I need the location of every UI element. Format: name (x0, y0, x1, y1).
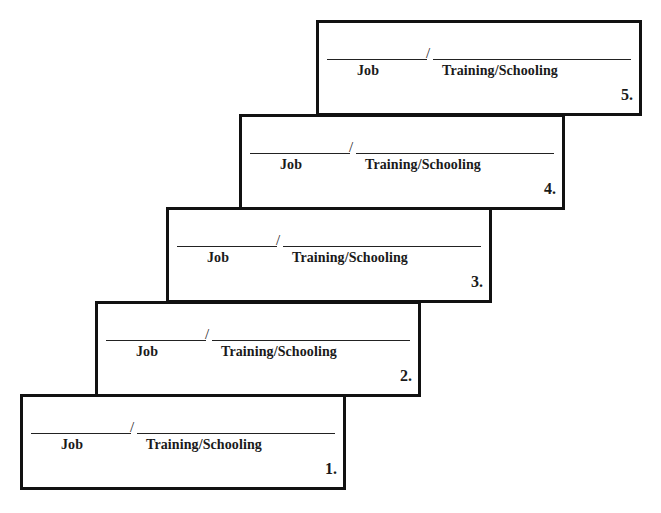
step-number: 3. (471, 273, 483, 291)
step-number: 1. (325, 460, 337, 478)
training-blank-line[interactable] (212, 340, 410, 341)
separator-slash: / (276, 232, 280, 249)
training-label: Training/Schooling (365, 157, 481, 173)
training-label: Training/Schooling (221, 344, 337, 360)
training-label: Training/Schooling (146, 437, 262, 453)
separator-slash: / (349, 139, 353, 156)
training-label: Training/Schooling (442, 63, 558, 79)
step-number: 5. (621, 86, 633, 104)
job-label: Job (136, 344, 158, 360)
training-blank-line[interactable] (433, 59, 631, 60)
step-box-1: / Job Training/Schooling 1. (20, 394, 346, 490)
step-box-4: / Job Training/Schooling 4. (239, 114, 565, 210)
job-blank-line[interactable] (250, 153, 350, 154)
separator-slash: / (205, 326, 209, 343)
job-label: Job (61, 437, 83, 453)
step-box-5: / Job Training/Schooling 5. (316, 20, 642, 116)
job-label: Job (357, 63, 379, 79)
step-box-3: / Job Training/Schooling 3. (166, 207, 492, 303)
job-blank-line[interactable] (31, 433, 131, 434)
training-label: Training/Schooling (292, 250, 408, 266)
training-blank-line[interactable] (137, 433, 335, 434)
job-blank-line[interactable] (177, 246, 277, 247)
job-label: Job (280, 157, 302, 173)
step-number: 4. (544, 180, 556, 198)
separator-slash: / (130, 419, 134, 436)
step-number: 2. (400, 367, 412, 385)
step-box-2: / Job Training/Schooling 2. (95, 301, 421, 397)
job-blank-line[interactable] (327, 59, 427, 60)
training-blank-line[interactable] (283, 246, 481, 247)
job-blank-line[interactable] (106, 340, 206, 341)
job-label: Job (207, 250, 229, 266)
separator-slash: / (426, 45, 430, 62)
training-blank-line[interactable] (356, 153, 554, 154)
